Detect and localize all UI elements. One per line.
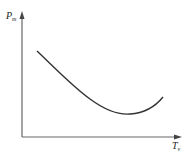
diagram-canvas <box>0 0 188 153</box>
x-axis <box>22 135 182 140</box>
y-axis-arrow-icon <box>20 11 25 19</box>
x-axis-label-sub: v <box>178 146 181 152</box>
curve-line <box>37 51 163 114</box>
x-axis-label: Tv <box>172 141 180 152</box>
x-axis-arrow-icon <box>174 135 182 140</box>
y-axis-label-sub: m <box>12 16 16 22</box>
y-axis <box>20 11 25 137</box>
y-axis-label: Pm <box>6 11 16 22</box>
